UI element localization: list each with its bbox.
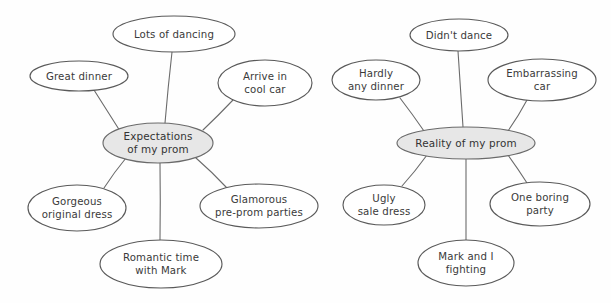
- node-mark-and-i-fighting[interactable]: Mark and Ifighting: [418, 240, 514, 286]
- node-arrive-in-cool-car[interactable]: Arrive incool car: [218, 60, 312, 106]
- node-label: Great dinner: [46, 71, 113, 82]
- node-label: Ugly: [372, 193, 395, 204]
- node-label: party: [526, 205, 554, 216]
- node-ellipse: [488, 59, 596, 101]
- node-label: Lots of dancing: [134, 29, 214, 40]
- node-ellipse: [100, 240, 222, 288]
- edge-expectations-great-dinner: [94, 90, 120, 131]
- node-lots-of-dancing[interactable]: Lots of dancing: [113, 16, 235, 52]
- node-label: of my prom: [127, 143, 189, 155]
- edge-reality-didnt-dance: [458, 51, 463, 127]
- node-ellipse: [418, 240, 514, 286]
- edge-expectations-gorgeous-original-dress: [104, 158, 126, 188]
- node-label: Gorgeous: [52, 196, 102, 207]
- edge-reality-embarrassing-car: [508, 100, 527, 131]
- node-label: One boring: [511, 192, 569, 203]
- node-one-boring-party[interactable]: One boringparty: [490, 182, 590, 226]
- node-gorgeous-original-dress[interactable]: Gorgeousoriginal dress: [28, 185, 126, 231]
- node-ellipse: [490, 182, 590, 226]
- node-embarrassing-car[interactable]: Embarrassingcar: [488, 59, 596, 101]
- node-label: Hardly: [359, 68, 393, 79]
- edge-reality-one-boring-party: [508, 155, 527, 183]
- node-ellipse: [343, 185, 425, 225]
- node-label: Expectations: [124, 130, 193, 142]
- edge-reality-hardly-any-dinner: [400, 98, 424, 131]
- node-reality-center[interactable]: Reality of my prom: [397, 127, 535, 159]
- node-ugly-sale-dress[interactable]: Uglysale dress: [343, 185, 425, 225]
- node-label: Romantic time: [123, 252, 199, 263]
- edge-expectations-lots-of-dancing: [165, 52, 172, 123]
- node-label: original dress: [42, 209, 113, 220]
- node-label: fighting: [446, 264, 486, 275]
- node-label: Reality of my prom: [415, 137, 517, 149]
- node-hardly-any-dinner[interactable]: Hardlyany dinner: [332, 60, 420, 100]
- node-label: cool car: [244, 84, 286, 95]
- mind-map-canvas: Lots of dancingGreat dinnerArrive incool…: [0, 0, 611, 303]
- edge-reality-ugly-sale-dress: [402, 155, 427, 186]
- node-great-dinner[interactable]: Great dinner: [30, 61, 128, 91]
- nodes-layer: Lots of dancingGreat dinnerArrive incool…: [28, 16, 596, 288]
- node-label: pre-prom parties: [215, 207, 303, 218]
- edge-expectations-glamorous-pre-prom-parties: [196, 158, 227, 188]
- node-label: Glamorous: [231, 194, 287, 205]
- node-label: Mark and I: [438, 251, 493, 262]
- node-label: sale dress: [358, 206, 411, 217]
- edge-expectations-arrive-in-cool-car: [203, 100, 233, 130]
- node-expectations-center[interactable]: Expectationsof my prom: [103, 123, 213, 163]
- node-ellipse: [28, 185, 126, 231]
- node-label: Didn't dance: [426, 30, 492, 41]
- node-label: any dinner: [348, 81, 405, 92]
- node-ellipse: [218, 60, 312, 106]
- node-ellipse: [200, 184, 318, 228]
- node-didnt-dance[interactable]: Didn't dance: [410, 19, 508, 51]
- node-label: car: [534, 81, 551, 92]
- node-ellipse: [332, 60, 420, 100]
- node-label: Embarrassing: [506, 68, 578, 79]
- node-romantic-time-with-mark[interactable]: Romantic timewith Mark: [100, 240, 222, 288]
- node-label: with Mark: [135, 265, 186, 276]
- node-label: Arrive in: [243, 71, 287, 82]
- node-glamorous-pre-prom-parties[interactable]: Glamorouspre-prom parties: [200, 184, 318, 228]
- mind-map-diagram: Lots of dancingGreat dinnerArrive incool…: [0, 0, 611, 303]
